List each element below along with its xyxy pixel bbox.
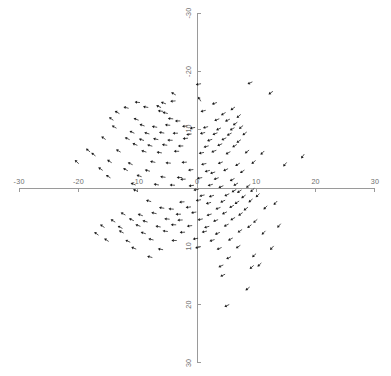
arrow-head bbox=[177, 176, 179, 179]
arrow-shaft bbox=[221, 265, 223, 266]
arrow-shaft bbox=[235, 122, 237, 123]
arrow-shaft bbox=[270, 92, 272, 93]
arrow-marker bbox=[178, 145, 183, 148]
arrow-shaft bbox=[220, 162, 222, 163]
arrow-shaft bbox=[77, 162, 79, 164]
arrow-shaft bbox=[219, 248, 221, 249]
arrow-marker bbox=[104, 239, 108, 242]
arrow-head bbox=[181, 161, 184, 164]
arrow-shaft bbox=[242, 170, 244, 171]
arrow-marker bbox=[277, 224, 280, 228]
arrow-marker bbox=[150, 160, 155, 163]
arrow-shaft bbox=[154, 213, 157, 214]
arrow-marker bbox=[220, 274, 225, 277]
arrow-shaft bbox=[212, 172, 214, 173]
arrow-shaft bbox=[145, 221, 147, 222]
arrow-shaft bbox=[233, 107, 235, 108]
arrow-head bbox=[178, 145, 180, 148]
arrow-shaft bbox=[221, 186, 223, 187]
arrow-shaft bbox=[128, 241, 130, 242]
arrow-marker bbox=[128, 162, 133, 165]
arrow-head bbox=[180, 178, 182, 181]
arrow-shaft bbox=[237, 201, 239, 202]
arrow-marker bbox=[154, 183, 159, 186]
arrow-head bbox=[203, 126, 206, 129]
arrow-head bbox=[180, 231, 182, 234]
arrow-shaft bbox=[126, 108, 129, 109]
arrow-marker bbox=[223, 169, 227, 172]
arrow-marker bbox=[193, 188, 198, 191]
arrow-marker bbox=[203, 145, 208, 148]
arrow-shaft bbox=[239, 190, 241, 191]
arrow-marker bbox=[199, 152, 204, 155]
arrow-shaft bbox=[149, 145, 152, 146]
arrow-shaft bbox=[208, 202, 211, 203]
arrow-marker bbox=[220, 200, 225, 203]
arrow-shaft bbox=[216, 178, 218, 179]
arrow-shaft bbox=[232, 218, 234, 219]
arrow-marker bbox=[180, 231, 185, 234]
arrow-head bbox=[205, 170, 208, 173]
arrow-shaft bbox=[251, 266, 253, 268]
arrow-marker bbox=[227, 133, 231, 136]
arrow-shaft bbox=[207, 170, 210, 171]
arrow-shaft bbox=[165, 113, 168, 114]
arrow-shaft bbox=[203, 164, 206, 165]
arrow-marker bbox=[209, 195, 214, 198]
arrow-head bbox=[167, 139, 169, 142]
arrow-marker bbox=[233, 122, 237, 125]
arrow-head bbox=[155, 225, 158, 228]
arrow-head bbox=[168, 207, 171, 210]
arrow-marker bbox=[268, 92, 272, 95]
arrow-marker bbox=[250, 189, 254, 192]
arrow-shaft bbox=[257, 194, 259, 196]
arrow-marker bbox=[247, 225, 251, 228]
arrow-marker bbox=[179, 201, 184, 204]
arrow-marker bbox=[201, 110, 206, 113]
arrow-marker bbox=[168, 117, 173, 120]
arrow-head bbox=[154, 183, 157, 186]
arrow-marker bbox=[159, 206, 164, 209]
arrow-head bbox=[199, 194, 202, 197]
arrow-head bbox=[193, 188, 196, 191]
arrow-shaft bbox=[149, 257, 152, 258]
arrow-shaft bbox=[252, 189, 254, 191]
arrow-shaft bbox=[142, 125, 144, 126]
arrow-head bbox=[171, 223, 173, 226]
arrow-shaft bbox=[241, 126, 243, 128]
arrow-shaft bbox=[224, 138, 226, 139]
arrow-head bbox=[162, 143, 165, 146]
arrow-head bbox=[148, 238, 151, 241]
arrow-shaft bbox=[143, 233, 145, 234]
arrow-shaft bbox=[114, 127, 116, 128]
arrow-shaft bbox=[108, 176, 110, 177]
arrow-marker bbox=[202, 230, 207, 233]
arrow-marker bbox=[200, 132, 205, 135]
arrow-marker bbox=[165, 124, 170, 127]
arrow-marker bbox=[135, 101, 140, 104]
arrow-marker bbox=[209, 239, 214, 242]
arrow-head bbox=[189, 184, 192, 187]
arrow-marker bbox=[151, 212, 156, 215]
arrow-head bbox=[157, 151, 160, 154]
arrow-head bbox=[170, 100, 173, 103]
arrow-head bbox=[158, 248, 161, 251]
arrow-shaft bbox=[210, 184, 212, 185]
arrow-marker bbox=[125, 240, 130, 243]
arrow-marker bbox=[245, 287, 249, 290]
arrow-marker bbox=[208, 184, 213, 187]
arrow-marker bbox=[141, 231, 146, 234]
arrow-shaft bbox=[203, 110, 206, 111]
arrow-marker bbox=[156, 105, 161, 108]
arrow-shaft bbox=[265, 206, 267, 208]
arrow-shaft bbox=[202, 133, 205, 134]
arrow-head bbox=[144, 132, 147, 135]
arrow-shaft bbox=[136, 119, 138, 120]
arrow-marker bbox=[248, 199, 252, 202]
arrow-shaft bbox=[206, 146, 209, 147]
arrow-shaft bbox=[232, 179, 234, 180]
arrow-marker bbox=[141, 150, 146, 153]
arrow-marker bbox=[226, 152, 230, 155]
arrow-marker bbox=[142, 220, 147, 223]
arrow-marker bbox=[147, 144, 152, 147]
